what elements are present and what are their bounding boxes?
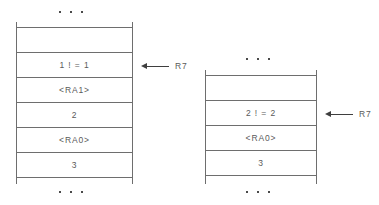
cell-factorial-1: 1 ! = 1 xyxy=(16,61,133,70)
register-label-r7: R7 xyxy=(175,62,188,71)
stack-rule xyxy=(205,150,317,151)
cell-factorial-2: 2 ! = 2 xyxy=(205,109,317,118)
ellipsis-dot xyxy=(268,191,270,193)
ellipsis-dot xyxy=(59,191,61,193)
ellipsis-bottom-left xyxy=(59,191,83,193)
stack-rule xyxy=(16,77,133,78)
stack-diagram-right: 2 ! = 2 <RA0> 3 xyxy=(205,70,317,184)
ellipsis-dot xyxy=(246,191,248,193)
ellipsis-top-right xyxy=(246,58,270,60)
ellipsis-bottom-right xyxy=(246,191,270,193)
stack-rule xyxy=(205,100,317,101)
cell-argument-3: 3 xyxy=(16,161,133,170)
stack-rule xyxy=(205,75,317,76)
arrow-shaft xyxy=(147,66,169,67)
cell-argument-3: 3 xyxy=(205,159,317,168)
stack-rule xyxy=(16,52,133,53)
ellipsis-dot xyxy=(70,11,72,13)
ellipsis-dot xyxy=(257,58,259,60)
stack-rule xyxy=(16,127,133,128)
stack-rail-right xyxy=(132,22,133,184)
ellipsis-top-left xyxy=(59,11,83,13)
stack-diagram: 1 ! = 1 <RA1> 2 <RA0> 3 R7 2 ! = 2 <RA0>… xyxy=(0,0,379,205)
stack-rule xyxy=(205,175,317,176)
ellipsis-dot xyxy=(81,11,83,13)
stack-rule xyxy=(16,152,133,153)
cell-return-address-0: <RA0> xyxy=(205,134,317,143)
ellipsis-dot xyxy=(246,58,248,60)
ellipsis-dot xyxy=(81,191,83,193)
stack-rail-left xyxy=(16,22,17,184)
stack-rule xyxy=(205,125,317,126)
stack-pointer-r7-left: R7 xyxy=(141,61,188,71)
cell-return-address-1: <RA1> xyxy=(16,86,133,95)
ellipsis-dot xyxy=(59,11,61,13)
ellipsis-dot xyxy=(70,191,72,193)
cell-argument-2: 2 xyxy=(16,111,133,120)
ellipsis-dot xyxy=(268,58,270,60)
stack-rule xyxy=(16,27,133,28)
register-label-r7: R7 xyxy=(359,110,372,119)
stack-rule xyxy=(16,102,133,103)
stack-diagram-left: 1 ! = 1 <RA1> 2 <RA0> 3 xyxy=(16,22,133,184)
arrow-shaft xyxy=(331,114,353,115)
cell-return-address-0: <RA0> xyxy=(16,136,133,145)
ellipsis-dot xyxy=(257,191,259,193)
stack-pointer-r7-right: R7 xyxy=(325,109,372,119)
stack-rule xyxy=(16,177,133,178)
